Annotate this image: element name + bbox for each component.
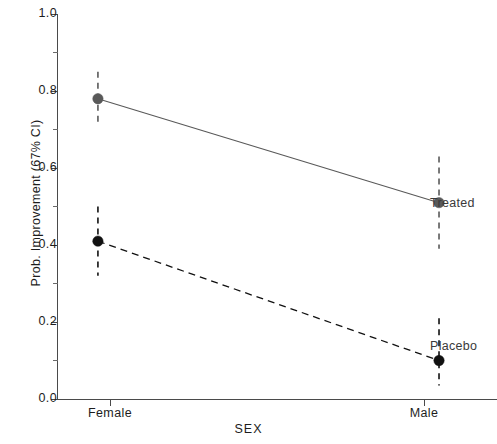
data-point-placebo-female: [93, 236, 103, 246]
series-line-placebo: [98, 241, 439, 360]
series-label-placebo: Placebo: [430, 339, 477, 353]
series-label-treated: Treated: [430, 196, 475, 210]
chart-container: 1.0 0.8 0.6 0.4 0.2 0.0 Female Male Prob…: [0, 0, 497, 444]
data-point-placebo-male: [434, 355, 444, 365]
plot-area: [0, 0, 497, 444]
series-line-treated: [98, 99, 439, 203]
data-point-treated-female: [93, 94, 103, 104]
